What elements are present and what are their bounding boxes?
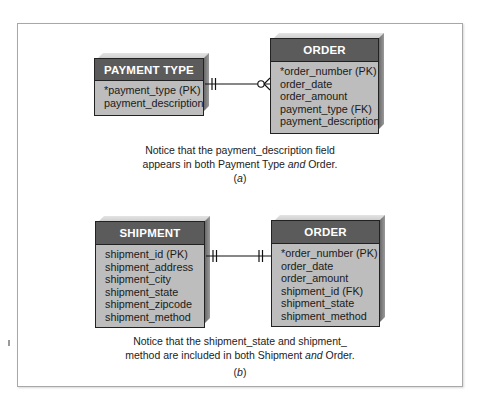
subfigure-label-b: (b) <box>225 366 255 378</box>
caption-b: Notice that the shipment_state and shipm… <box>115 334 365 362</box>
